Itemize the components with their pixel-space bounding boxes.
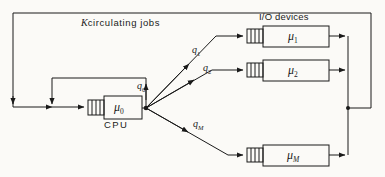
branch-label-q0: q0 — [137, 81, 145, 94]
io-devices-label: I/O devices — [259, 12, 309, 22]
branch-label-qm: qM — [193, 119, 203, 132]
io-device-2-label: μ2 — [288, 64, 298, 79]
io-device-1-label: μ1 — [288, 30, 298, 45]
q1-subscript: 1 — [197, 50, 200, 57]
mu-subscript-io1: 1 — [294, 36, 298, 45]
cpu-caption: CPU — [104, 120, 128, 130]
mu-subscript-io2: 2 — [294, 70, 298, 79]
q2-subscript: 2 — [208, 68, 211, 75]
branch-label-q1: q1 — [192, 45, 200, 58]
q0-subscript: 0 — [142, 86, 145, 93]
branch-label-q2: q2 — [203, 63, 211, 76]
branch-qM — [146, 108, 243, 155]
branch-q2 — [146, 70, 243, 108]
circulating-jobs-label: Kcirculating jobs — [81, 18, 160, 28]
cpu-feedback-loop — [52, 78, 146, 108]
queueing-network-figure: Kcirculating jobs I/O devices CPU μ0 μ1 … — [0, 0, 385, 177]
merge-node — [346, 106, 350, 110]
mu-subscript-cpu: 0 — [120, 107, 124, 116]
output-collector-bus — [348, 36, 371, 155]
cpu-server-label: μ0 — [114, 101, 124, 116]
mu-subscript-iom: M — [293, 155, 299, 164]
io-device-m-label: μM — [287, 149, 299, 164]
circulating-jobs-symbol: K — [81, 17, 88, 28]
qm-subscript: M — [198, 124, 203, 131]
circulating-jobs-text: circulating jobs — [88, 17, 160, 28]
diagram-canvas — [0, 0, 385, 177]
